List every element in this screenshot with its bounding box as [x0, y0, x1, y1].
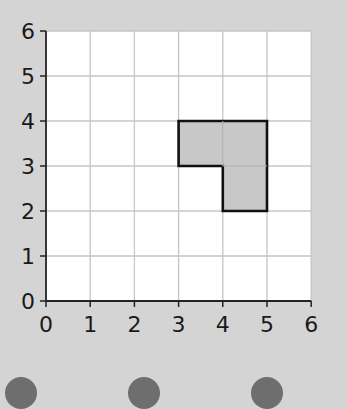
- y-tick-label: 5: [21, 64, 35, 89]
- y-tick-label: 1: [21, 244, 35, 269]
- y-tick-label: 3: [21, 154, 35, 179]
- y-tick-label: 2: [21, 199, 35, 224]
- answer-option-b[interactable]: [128, 377, 160, 409]
- y-tick-label: 6: [21, 19, 35, 44]
- answer-option-c[interactable]: [251, 377, 283, 409]
- x-tick-label: 4: [216, 312, 230, 337]
- x-tick-label: 1: [83, 312, 97, 337]
- x-tick-label: 6: [304, 312, 318, 337]
- y-tick-label: 4: [21, 109, 35, 134]
- x-tick-label: 3: [172, 312, 186, 337]
- x-tick-label: 2: [127, 312, 141, 337]
- y-tick-label: 0: [21, 289, 35, 314]
- x-tick-label: 5: [260, 312, 274, 337]
- x-tick-label: 0: [39, 312, 53, 337]
- answer-option-a[interactable]: [5, 377, 37, 409]
